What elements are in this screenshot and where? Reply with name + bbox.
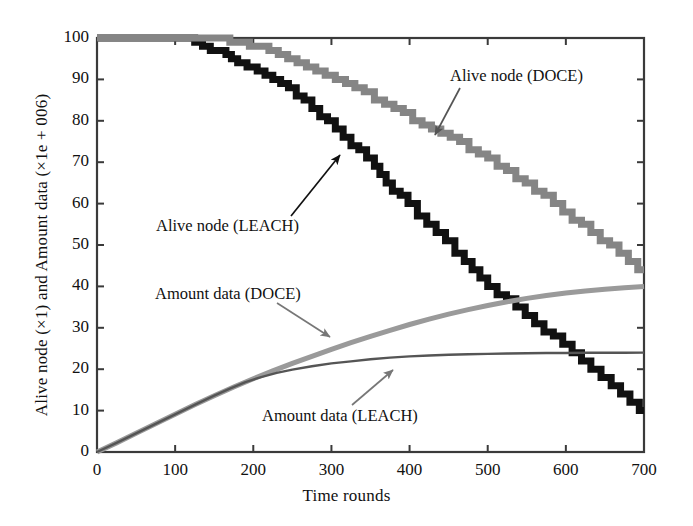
x-tick-label: 500 — [458, 460, 518, 480]
plot-canvas — [0, 0, 693, 526]
y-tick-label: 70 — [43, 151, 89, 171]
annotation-arrow — [435, 88, 460, 135]
chart-figure: Alive node (×1) and Amount data (×1e + 0… — [0, 0, 693, 526]
x-tick-label: 0 — [67, 460, 127, 480]
x-tick-label: 100 — [145, 460, 205, 480]
y-tick-label: 40 — [43, 275, 89, 295]
annotation-arrow — [277, 303, 330, 337]
annotation-label: Amount data (LEACH) — [262, 406, 418, 426]
y-tick-label: 90 — [43, 68, 89, 88]
y-tick-label: 50 — [43, 234, 89, 254]
x-tick-label: 200 — [223, 460, 283, 480]
y-tick-label: 80 — [43, 110, 89, 130]
annotation-label: Amount data (DOCE) — [155, 284, 301, 304]
y-tick-label: 60 — [43, 193, 89, 213]
x-tick-label: 300 — [301, 460, 361, 480]
x-tick-label: 700 — [614, 460, 674, 480]
y-tick-label: 100 — [43, 27, 89, 47]
y-tick-label: 0 — [43, 441, 89, 461]
x-tick-label: 600 — [536, 460, 596, 480]
y-tick-label: 30 — [43, 317, 89, 337]
annotation-arrow — [352, 370, 393, 405]
series-line-3 — [97, 353, 644, 452]
y-tick-label: 20 — [43, 358, 89, 378]
annotation-label: Alive node (DOCE) — [450, 66, 583, 86]
annotation-arrow — [291, 155, 340, 216]
x-axis-label: Time rounds — [0, 486, 693, 506]
annotation-label: Alive node (LEACH) — [156, 216, 299, 236]
series-line-2 — [97, 286, 644, 452]
x-tick-label: 400 — [380, 460, 440, 480]
y-tick-label: 10 — [43, 400, 89, 420]
